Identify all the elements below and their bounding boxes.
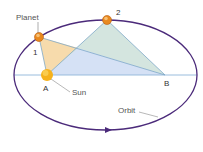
point-B-label: B — [164, 79, 169, 88]
orbit-diagram: Planet 1 2 A B Sun Orbit — [0, 0, 203, 152]
point-2-label: 2 — [116, 8, 121, 17]
orbit-direction-arrow-icon — [105, 127, 112, 133]
sun-label: Sun — [72, 88, 86, 97]
sun-highlight — [43, 70, 49, 76]
planet-label: Planet — [16, 13, 39, 22]
orbit-leader-line — [139, 112, 158, 117]
planet-position-2-icon — [103, 16, 112, 25]
point-A-label: A — [43, 84, 49, 93]
planet-2-highlight — [104, 17, 108, 21]
planet-1-highlight — [36, 34, 40, 38]
sun-leader-line — [51, 79, 70, 92]
planet-position-1-icon — [35, 33, 44, 42]
point-1-label: 1 — [33, 48, 38, 57]
orbit-label: Orbit — [118, 106, 136, 115]
